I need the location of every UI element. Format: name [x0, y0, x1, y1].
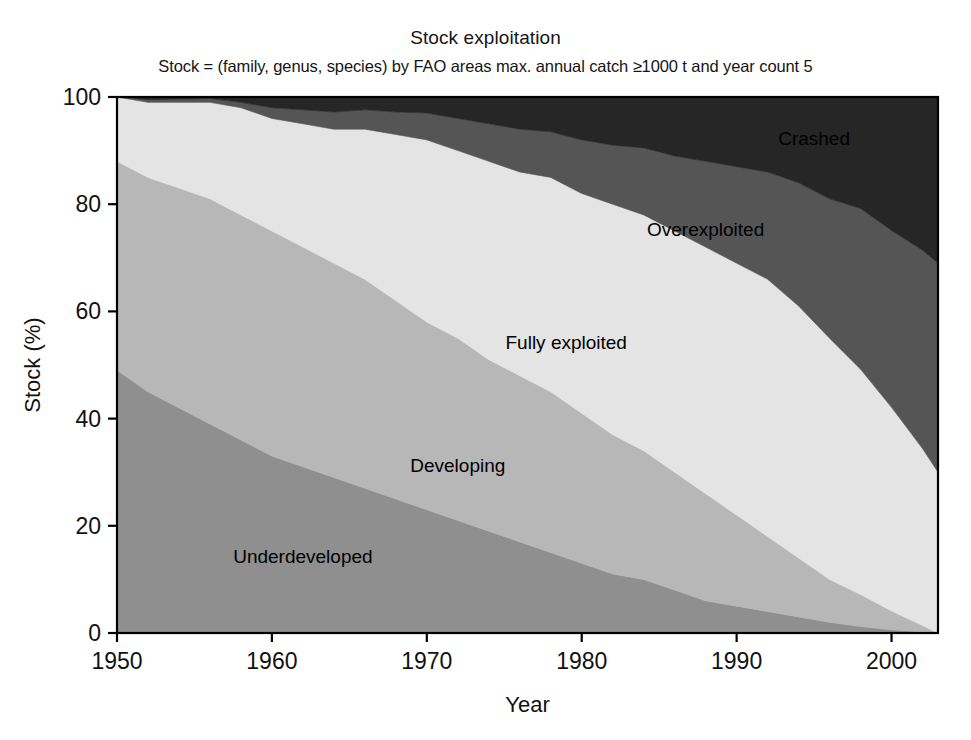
y-tick-label: 100 [63, 84, 101, 110]
series-label-crashed: Crashed [778, 128, 850, 149]
series-label-underdeveloped: Underdeveloped [233, 546, 372, 567]
figure-stock-exploitation: Stock exploitation Stock = (family, genu… [0, 0, 971, 740]
x-tick-label: 1950 [91, 648, 142, 674]
series-label-overexploited: Overexploited [647, 219, 764, 240]
y-tick-label: 60 [75, 298, 101, 324]
x-tick-label: 1960 [246, 648, 297, 674]
y-tick-label: 20 [75, 513, 101, 539]
y-tick-label: 80 [75, 191, 101, 217]
y-axis-title: Stock (%) [20, 317, 45, 412]
x-tick-label: 1980 [556, 648, 607, 674]
x-tick-label: 1990 [711, 648, 762, 674]
x-axis-title: Year [505, 692, 549, 717]
x-tick-label: 1970 [401, 648, 452, 674]
series-label-fully-exploited: Fully exploited [505, 332, 626, 353]
plot-area: UnderdevelopedDevelopingFully exploitedO… [0, 0, 971, 740]
figure-caption-sliver [0, 722, 971, 740]
series-label-developing: Developing [410, 455, 505, 476]
stacked-area-chart: UnderdevelopedDevelopingFully exploitedO… [0, 0, 971, 740]
y-tick-label: 0 [88, 620, 101, 646]
y-tick-label: 40 [75, 406, 101, 432]
x-tick-label: 2000 [866, 648, 917, 674]
